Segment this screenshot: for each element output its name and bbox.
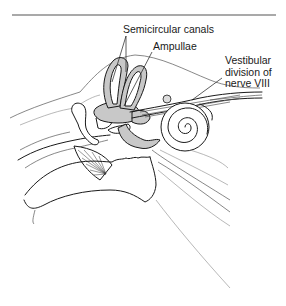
temporal-bone-inner-outline (20, 95, 100, 125)
cochlea (161, 103, 209, 151)
label-vestibular-nerve: Vestibular division of nerve VIII (225, 55, 286, 90)
diagonal-line-3 (158, 162, 230, 212)
tympanic-membrane (74, 146, 112, 180)
cochlear-duct (118, 124, 160, 149)
label-ampullae: Ampullae (153, 41, 197, 53)
diagonal-line-6 (190, 150, 228, 168)
label-semicircular-canals: Semicircular canals (123, 24, 214, 36)
diagonal-line-5 (156, 200, 230, 288)
label-vestibular-nerve-line3: nerve VIII (225, 78, 286, 90)
label-vestibular-nerve-line1: Vestibular (225, 55, 286, 67)
diagonal-line-4 (158, 170, 230, 226)
inner-ear-diagram (0, 0, 286, 306)
bone-contour-lower (33, 210, 35, 224)
